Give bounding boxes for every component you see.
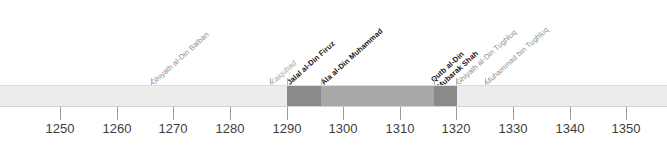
axis-tick-label: 1290 <box>273 121 302 136</box>
axis-tick-label: 1350 <box>612 121 641 136</box>
axis-tick <box>60 107 61 120</box>
axis-tick-label: 1320 <box>442 121 471 136</box>
timeline-axis: 1250 1260 1270 1280 1290 1300 1310 1320 … <box>0 107 667 155</box>
axis-tick-label: 1250 <box>46 121 75 136</box>
axis-tick <box>117 107 118 120</box>
axis-tick <box>400 107 401 120</box>
axis-tick-label: 1270 <box>159 121 188 136</box>
axis-tick <box>513 107 514 120</box>
axis-tick-label: 1260 <box>103 121 132 136</box>
reign-segment-ala-al-din-muhammad <box>321 86 434 106</box>
marker-label-text: Ghiyath al-Din Balban <box>149 30 211 87</box>
axis-tick <box>456 107 457 120</box>
axis-tick <box>173 107 174 120</box>
axis-tick <box>230 107 231 120</box>
marker-label-ghiyath-al-din-balban: Ghiyath al-Din Balban <box>149 30 211 87</box>
axis-tick-label: 1310 <box>386 121 415 136</box>
reign-segment-qutb-al-din-mubarak-shah <box>434 86 457 106</box>
dynasty-timeline-figure: Ghiyath al-Din Balban Kaiqubad Jalal al-… <box>0 0 667 155</box>
marker-label-text: Ala al-Din Muhammad <box>319 26 385 86</box>
axis-tick <box>287 107 288 120</box>
axis-tick-label: 1300 <box>329 121 358 136</box>
axis-tick <box>343 107 344 120</box>
axis-tick-label: 1330 <box>499 121 528 136</box>
timeline-bar <box>0 85 667 107</box>
axis-tick-label: 1280 <box>216 121 245 136</box>
axis-tick-label: 1340 <box>556 121 585 136</box>
axis-tick <box>626 107 627 120</box>
marker-label-ala-al-din-muhammad: Ala al-Din Muhammad <box>319 26 385 86</box>
axis-tick <box>570 107 571 120</box>
reign-segment-jalal-al-din-firuz <box>287 86 321 106</box>
